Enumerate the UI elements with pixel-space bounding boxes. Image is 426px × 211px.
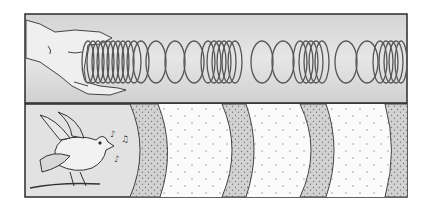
slinky-panel [25,14,407,103]
svg-text:♫: ♫ [121,134,129,144]
slinky-sound-wave-figure: ♪ ♫ ♪ [0,0,426,211]
svg-text:♪: ♪ [114,154,120,164]
wave-bands [130,104,410,197]
sound-wave-panel: ♪ ♫ ♪ [25,104,410,197]
svg-text:♪: ♪ [110,129,116,139]
